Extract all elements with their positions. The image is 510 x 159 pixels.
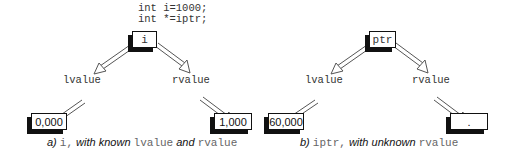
- edge-label-rvalue-b: rvalue: [412, 74, 450, 86]
- leaf-node-lvalue-a: 0,000: [31, 113, 67, 130]
- root-node-ptr: ptr: [369, 31, 396, 48]
- leaf-node-rvalue-a: 1,000: [214, 113, 252, 130]
- leaf-node-lvalue-b: 60,000: [268, 113, 304, 130]
- root-label: i: [141, 34, 148, 46]
- caption-b: b) iptr, with unknown rvalue: [300, 136, 458, 149]
- code-snippet: int i=1000; int *=iptr;: [138, 3, 207, 25]
- code-line-2: int *=iptr;: [138, 13, 207, 25]
- root-node-i: i: [132, 31, 157, 48]
- edge-label-lvalue-a: lvalue: [63, 74, 101, 86]
- caption-var: iptr,: [313, 137, 346, 149]
- caption-term: lvalue: [134, 137, 174, 149]
- caption-term: rvalue: [198, 137, 238, 149]
- caption-a: a) i, with known lvalue and rvalue: [47, 136, 237, 149]
- leaf-value: 1,000: [219, 116, 247, 128]
- caption-prefix: a): [47, 136, 60, 148]
- caption-text: with unknown: [346, 136, 419, 148]
- caption-term: rvalue: [419, 137, 459, 149]
- caption-var: i,: [60, 137, 73, 149]
- leaf-node-rvalue-b: .: [450, 113, 488, 130]
- caption-text: with known: [73, 136, 134, 148]
- caption-text: and: [173, 136, 197, 148]
- caption-prefix: b): [300, 136, 313, 148]
- leaf-value: 0,000: [35, 116, 63, 128]
- edge-label-rvalue-a: rvalue: [172, 74, 210, 86]
- edge-label-lvalue-b: lvalue: [305, 74, 343, 86]
- root-label: ptr: [373, 34, 393, 46]
- leaf-value: 60,000: [269, 116, 303, 128]
- leaf-value: .: [467, 116, 470, 128]
